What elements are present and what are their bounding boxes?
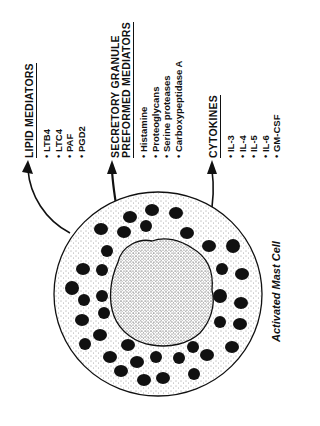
nucleus — [111, 239, 214, 346]
group-title: CYTOKINES — [208, 95, 221, 158]
arrowhead-lipid — [22, 160, 33, 174]
group-lipid-mediators: LIPID MEDIATORS LTB4 LTC4 PAF PGD2 — [24, 63, 87, 158]
list-item: Proteoglycans — [150, 22, 162, 158]
list-item: Histamine — [138, 22, 150, 158]
list-item: LTB4 — [41, 63, 53, 158]
group-secretory-granule: SECRETORY GRANULE PREFORMED MEDIATORS Hi… — [110, 22, 184, 158]
group-title: LIPID MEDIATORS — [24, 63, 37, 158]
arrowhead-cytokines — [207, 160, 217, 174]
group-cytokines: CYTOKINES IL-3 IL-4 IL-5 IL-6 GM-CSF — [208, 95, 283, 158]
list-item: IL-4 — [237, 95, 249, 158]
list-item: GM-CSF — [271, 95, 283, 158]
caption: Activated Mast Cell — [270, 241, 282, 342]
list-item: LTC4 — [53, 63, 65, 158]
list-item: Carboxypeptidase A — [173, 22, 185, 158]
list-item: Serine proteases — [161, 22, 173, 158]
arrow-lipid — [28, 170, 70, 233]
list-item: IL-6 — [260, 95, 272, 158]
list-item: PAF — [64, 63, 76, 158]
group-title: SECRETORY GRANULE PREFORMED MEDIATORS — [110, 22, 134, 158]
list-item: PGD2 — [76, 63, 88, 158]
list-item: IL-3 — [225, 95, 237, 158]
arrowhead-granule — [107, 160, 117, 174]
list-item: IL-5 — [248, 95, 260, 158]
